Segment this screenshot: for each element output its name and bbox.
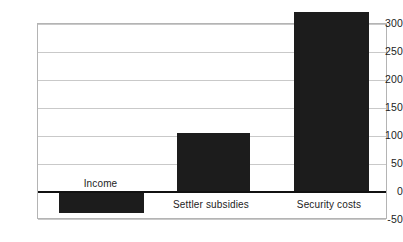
x-label-settler-subsidies: Settler subsidies	[151, 199, 271, 210]
x-label-income: Income	[58, 178, 143, 189]
x-label-security-costs: Security costs	[269, 199, 389, 210]
bar-chart: 300 250 200 150 100 50 0 -50 Income Sett…	[0, 0, 403, 242]
x-axis: Income Settler subsidies Security costs	[0, 0, 403, 242]
